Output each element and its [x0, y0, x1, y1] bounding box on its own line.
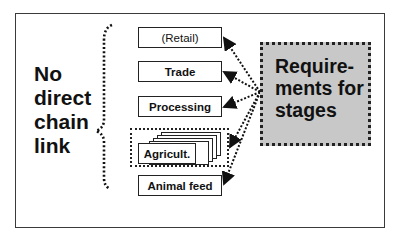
stage-box-animal-feed: Animal feed [138, 175, 222, 196]
stage-label: Animal feed [147, 180, 212, 192]
stage-box-processing: Processing [138, 96, 222, 117]
requirements-line: ments for [275, 77, 368, 99]
stage-box-agriculture: Agricult. [138, 143, 196, 164]
stage-label: Trade [165, 66, 196, 78]
stage-label: (Retail) [161, 32, 198, 44]
arrow-to-animal-feed [224, 92, 260, 184]
requirements-for-stages-box: Require- ments for stages [260, 42, 371, 146]
stage-box-trade: Trade [138, 61, 222, 82]
curly-brace-icon [96, 25, 112, 189]
stage-label: Agricult. [144, 148, 191, 160]
arrow-to-processing [224, 92, 260, 107]
requirements-line: Require- [275, 55, 368, 77]
stage-box-retail: (Retail) [138, 27, 222, 48]
requirements-line: stages [275, 99, 368, 121]
stage-label: Processing [149, 101, 211, 113]
arrow-to-trade [224, 72, 260, 92]
arrow-to-retail [224, 38, 260, 92]
arrow-to-agriculture [230, 92, 260, 147]
